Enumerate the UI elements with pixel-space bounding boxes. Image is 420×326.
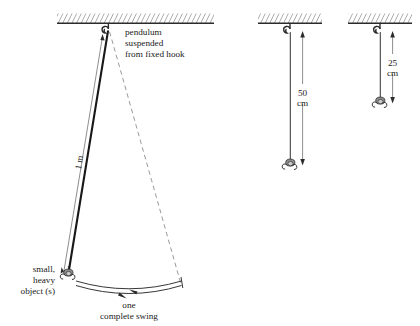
ceiling-25cm [348, 14, 412, 24]
length-unit-25cm: cm [387, 68, 398, 78]
length-label-1m-text: 1 m [73, 155, 85, 170]
swing-arc-forward [76, 281, 182, 289]
pendulum-50cm-group: 50 cm [258, 14, 322, 170]
swing-arc-right-tick [181, 277, 183, 288]
dimension-arrowhead-50cm-top [300, 31, 305, 38]
annotation-line-2: suspended [125, 38, 164, 48]
annotation-line-1: pendulum [125, 27, 162, 37]
pendulum-bob-icon [60, 266, 75, 279]
length-unit-50cm: cm [297, 98, 308, 108]
dimension-arrowhead-25cm-top [390, 31, 395, 38]
ceiling-hatching-50cm [258, 14, 322, 24]
dimension-arrowhead-50cm-bottom [300, 159, 305, 166]
annotation-line-3: from fixed hook [125, 49, 185, 59]
bob-label-line-1: small, [33, 264, 55, 274]
pendulum-25cm-group: 25 cm [348, 14, 412, 108]
ceiling-hook-icon-50cm [284, 23, 290, 33]
pendulum-string [69, 31, 108, 271]
length-dimension-1m [64, 34, 105, 273]
pendulum-diagram-canvas: 1 m pendulum suspended from fixed hook s… [0, 0, 420, 326]
swing-arc-group [76, 277, 183, 298]
dimension-arrowhead-top [100, 34, 104, 40]
ceiling-hook-icon-25cm [374, 23, 380, 33]
pendulum-bob-icon-25cm [372, 97, 387, 107]
ceiling-hatching [57, 14, 214, 24]
swing-label-line-2: complete swing [100, 311, 158, 321]
swing-arc-backward [76, 286, 182, 294]
bob-label: small, heavy object (s) [21, 264, 56, 296]
length-value-50cm: 50 [298, 88, 308, 98]
main-ceiling [57, 14, 214, 24]
ceiling-hatching-25cm [348, 14, 412, 24]
bob-label-line-3: object (s) [21, 286, 55, 296]
swing-label-line-1: one [122, 300, 135, 310]
ceiling-50cm [258, 14, 322, 24]
length-label-1m: 1 m [73, 155, 85, 170]
length-value-25cm: 25 [388, 58, 398, 68]
dimension-arrowhead-25cm-bottom [390, 97, 395, 104]
dashed-extreme-position [110, 32, 181, 283]
pendulum-bob-icon-50cm [282, 159, 297, 169]
swing-label: one complete swing [100, 300, 158, 321]
main-pendulum-group: 1 m pendulum suspended from fixed hook s… [21, 14, 214, 321]
bob-label-line-2: heavy [33, 275, 55, 285]
diagram-svg: 1 m pendulum suspended from fixed hook s… [0, 0, 420, 326]
main-annotation: pendulum suspended from fixed hook [125, 27, 185, 59]
